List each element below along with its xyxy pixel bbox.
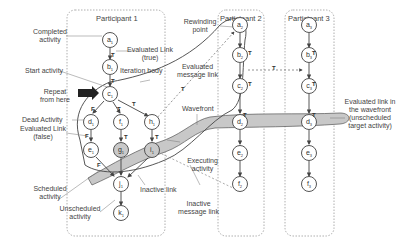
- activity-c1[interactable]: c1: [102, 86, 118, 102]
- activity-e2[interactable]: e2: [232, 145, 248, 161]
- link-label-t: T: [181, 86, 185, 92]
- activity-c2[interactable]: c2: [232, 78, 248, 94]
- repeat-arrow: [78, 86, 99, 100]
- activity-b2[interactable]: b2: [232, 47, 248, 63]
- label-evaluated-link-wavefront: Evaluated link in the wavefront (unsched…: [340, 98, 400, 130]
- label-start-activity: Start activity: [25, 67, 63, 75]
- label-scheduled-activity: Scheduled activity: [30, 185, 70, 201]
- label-executing-activity: Executing activity: [185, 157, 220, 173]
- activity-g1[interactable]: g1: [113, 142, 129, 158]
- label-evaluated-link-false: Evaluated Link (false): [18, 125, 68, 141]
- link-label-t: T: [248, 81, 252, 87]
- label-rewinding-point: Rewinding point: [180, 18, 220, 34]
- activity-a3[interactable]: a3: [301, 17, 317, 33]
- label-evaluated-message-link: Evaluated message link: [175, 63, 220, 79]
- link-label-f: F: [97, 162, 101, 168]
- label-wavefront: Wavefront: [182, 105, 214, 113]
- label-dead-activity: Dead Activity: [22, 116, 62, 124]
- link-label-t: T: [272, 65, 276, 71]
- label-evaluated-link-true: Evaluated Link (true): [120, 46, 180, 62]
- label-repeat-from-here: Repeat from here: [38, 88, 72, 104]
- link-label-t: T: [312, 81, 316, 87]
- label-inactive-link: Inactive link: [140, 186, 177, 194]
- activity-e1[interactable]: e1: [83, 142, 99, 158]
- label-iteration-body: Iteration body: [120, 67, 162, 75]
- activity-f3[interactable]: f3: [301, 176, 317, 192]
- link-label-t: T: [312, 50, 316, 56]
- link-label-t: T: [111, 52, 115, 58]
- link-label-t: T: [117, 106, 121, 112]
- link-label-t: T: [248, 50, 252, 56]
- label-completed-activity: Completed activity: [30, 28, 70, 44]
- link-label-t: T: [132, 101, 136, 107]
- link-label-t: T: [243, 112, 247, 118]
- link-label-f: F: [85, 133, 89, 139]
- link-label-t: T: [312, 112, 316, 118]
- link-label-t: T: [124, 134, 128, 140]
- activity-e3[interactable]: e3: [301, 145, 317, 161]
- activity-d1[interactable]: d1: [83, 114, 99, 130]
- activity-i1[interactable]: i1: [144, 142, 160, 158]
- activity-f2[interactable]: f2: [232, 176, 248, 192]
- activity-a2[interactable]: a2: [232, 17, 248, 33]
- label-inactive-message-link: Inactive message link: [176, 200, 221, 216]
- activity-h1[interactable]: h1: [144, 114, 160, 130]
- link-label-t: T: [155, 134, 159, 140]
- activity-f1[interactable]: f1: [113, 114, 129, 130]
- activity-a1[interactable]: a1: [102, 32, 118, 48]
- activity-k1[interactable]: k1: [113, 205, 129, 221]
- label-unscheduled-activity: Unscheduled activity: [55, 205, 105, 221]
- activity-b1[interactable]: b1: [102, 59, 118, 75]
- participant-1-title: Participant 1: [96, 14, 138, 23]
- link-label-f: F: [91, 106, 95, 112]
- link-label-t: T: [111, 78, 115, 84]
- activity-j1[interactable]: j1: [113, 176, 129, 192]
